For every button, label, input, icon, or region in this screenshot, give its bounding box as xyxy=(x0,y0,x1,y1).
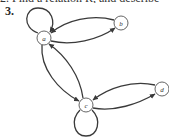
node-d: d xyxy=(155,82,169,96)
node-a: a xyxy=(37,31,51,45)
edge-a-b xyxy=(51,28,115,43)
edge-a-a-loop xyxy=(27,8,53,33)
node-a-label: a xyxy=(42,35,46,43)
edge-c-a xyxy=(49,44,83,98)
node-b-label: b xyxy=(119,20,123,28)
edge-b-a xyxy=(51,18,114,33)
node-d-label: d xyxy=(160,86,164,94)
edge-d-c xyxy=(93,83,155,100)
edge-c-d xyxy=(93,94,155,109)
node-b: b xyxy=(114,16,128,30)
edge-c-c-loop xyxy=(74,110,97,136)
directed-graph-diagram: a b c d xyxy=(0,0,169,137)
node-c: c xyxy=(79,98,93,112)
